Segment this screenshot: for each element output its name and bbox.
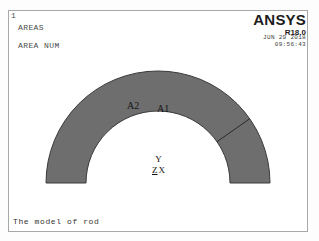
coordinate-triad: Y ZX: [152, 154, 165, 175]
triad-z-axis-label: Z: [152, 165, 158, 175]
ansys-viewport-screenshot: 1 AREAS AREA NUM ANSYS R18.0 JUN 29 2018…: [0, 0, 319, 241]
triad-x-axis-label: X: [159, 165, 166, 175]
plot-caption: The model of rod: [13, 217, 99, 227]
area-label-a2: A2: [127, 101, 139, 111]
area-label-a1: A1: [157, 104, 169, 114]
triad-zx-row: ZX: [152, 165, 165, 175]
triad-y-axis-label: Y: [152, 154, 165, 164]
arch-model-graphic: [8, 10, 308, 232]
